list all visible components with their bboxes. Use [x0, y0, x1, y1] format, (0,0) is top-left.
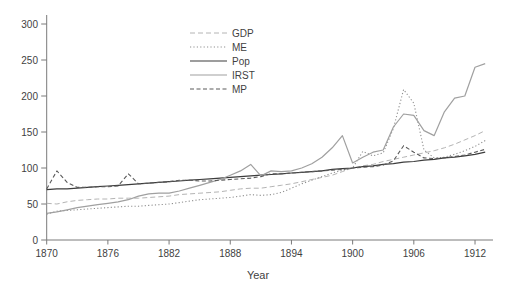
legend-label-me: ME: [232, 42, 247, 53]
legend-label-mp: MP: [232, 84, 247, 95]
legend-entry-me: ME: [190, 42, 247, 53]
x-tick-label: 1888: [219, 248, 242, 259]
chart-figure: 0501001502002503001870187618821888189419…: [0, 0, 507, 293]
series-layer: [47, 64, 486, 215]
y-tick-label: 250: [21, 55, 38, 66]
x-tick-label: 1900: [342, 248, 365, 259]
y-tick-label: 300: [21, 19, 38, 30]
axes-layer: 0501001502002503001870187618821888189419…: [21, 15, 493, 259]
y-tick-label: 150: [21, 127, 38, 138]
series-line-gdp: [47, 131, 486, 204]
legend-entry-mp: MP: [190, 84, 247, 95]
series-line-me: [47, 90, 486, 215]
legend-entry-pop: Pop: [190, 56, 250, 67]
series-line-mp: [47, 146, 486, 189]
x-tick-label: 1876: [97, 248, 120, 259]
x-tick-label: 1906: [403, 248, 426, 259]
legend-label-pop: Pop: [232, 56, 250, 67]
x-axis-title: Year: [247, 269, 270, 281]
y-tick-label: 50: [27, 199, 39, 210]
x-tick-label: 1870: [36, 248, 59, 259]
x-tick-label: 1912: [464, 248, 487, 259]
line-chart: 0501001502002503001870187618821888189419…: [0, 0, 507, 293]
legend-entry-irst: IRST: [190, 70, 255, 81]
series-line-irst: [47, 64, 486, 214]
legend-label-gdp: GDP: [232, 28, 254, 39]
legend: GDPMEPopIRSTMP: [190, 28, 255, 95]
series-line-pop: [47, 152, 486, 189]
y-tick-label: 0: [32, 235, 38, 246]
legend-label-irst: IRST: [232, 70, 255, 81]
y-tick-label: 200: [21, 91, 38, 102]
legend-entry-gdp: GDP: [190, 28, 254, 39]
x-tick-label: 1894: [280, 248, 303, 259]
y-tick-label: 100: [21, 163, 38, 174]
x-tick-label: 1882: [158, 248, 181, 259]
